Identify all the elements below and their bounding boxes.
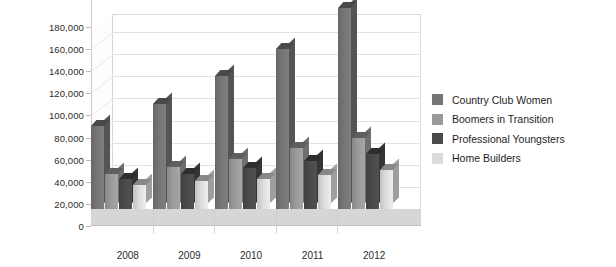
bar [290,148,303,209]
plot-area: 20082009201020112012 [91,14,421,226]
x-axis-tick-label: 2009 [178,250,200,261]
y-axis-tick-label: 120,000 [49,88,84,99]
y-axis-tick-label: 160,000 [49,44,84,55]
y-axis: 020,00040,00060,00080,000100,000120,0001… [0,0,84,267]
bar [243,168,256,209]
bar-face [229,159,242,209]
bar-face [91,126,104,209]
bar [229,159,242,209]
bar-face [215,76,228,209]
bar-face [119,179,132,209]
legend-swatch-icon [432,133,443,144]
legend-item[interactable]: Boomers in Transition [432,110,612,130]
bar [276,49,289,209]
y-axis-tick-label: 0 [79,221,84,232]
category-separator [214,209,215,233]
category-separator [276,209,277,233]
bar-face [290,148,303,209]
legend-item[interactable]: Country Club Women [432,90,612,110]
bar [352,138,365,209]
bar [318,175,331,209]
legend-swatch-icon [432,153,443,164]
bar-face [352,138,365,209]
bar-face [276,49,289,209]
bar [153,104,166,209]
bar-face [243,168,256,209]
bar-face [153,104,166,209]
chart-floor-edge [91,225,421,226]
bar [380,170,393,209]
bar-face [380,170,393,209]
y-axis-tick-label: 40,000 [54,176,84,187]
x-axis-tick-label: 2011 [302,250,324,261]
bar-face [338,8,351,209]
y-axis-tick-label: 180,000 [49,22,84,33]
bar-group [153,14,208,209]
bar [105,174,118,209]
legend-item[interactable]: Professional Youngsters [432,129,612,149]
bar [167,167,180,209]
bar [215,76,228,209]
x-axis-tick-label: 2012 [363,250,385,261]
y-axis-tick-label: 80,000 [54,132,84,143]
legend-swatch-icon [432,114,443,125]
y-axis-tick-label: 20,000 [54,198,84,209]
legend-item-label: Boomers in Transition [452,113,554,125]
bar-face [366,154,379,209]
bar [257,179,270,209]
bar-face [195,181,208,209]
bar [338,8,351,209]
y-axis-tick-label: 60,000 [54,154,84,165]
bar-face [167,167,180,209]
y-axis-tick-label: 100,000 [49,110,84,121]
legend-item-label: Country Club Women [452,94,552,106]
x-axis-tick-label: 2010 [240,250,262,261]
chart-floor [91,209,421,226]
bar-group [338,14,393,209]
bar-group [91,14,146,209]
bar [366,154,379,209]
bar-face [133,185,146,209]
category-separator [337,209,338,233]
bar-face [318,175,331,209]
legend-item-label: Professional Youngsters [452,133,565,145]
legend-swatch-icon [432,94,443,105]
bar [133,185,146,209]
bar-group [215,14,270,209]
legend-item[interactable]: Home Builders [432,149,612,169]
bar-face [181,174,194,209]
chart-legend: Country Club WomenBoomers in TransitionP… [432,90,612,168]
category-separator [153,209,154,233]
bar [195,181,208,209]
bar-face [257,179,270,209]
bar [91,126,104,209]
bar-group [276,14,331,209]
bar [119,179,132,209]
bar [304,161,317,209]
bar [181,174,194,209]
legend-item-label: Home Builders [452,152,521,164]
bar-face [105,174,118,209]
bar-face [304,161,317,209]
x-axis-tick-label: 2008 [117,250,139,261]
y-axis-tick-label: 140,000 [49,66,84,77]
chart-container: 020,00040,00060,00080,000100,000120,0001… [0,0,616,267]
